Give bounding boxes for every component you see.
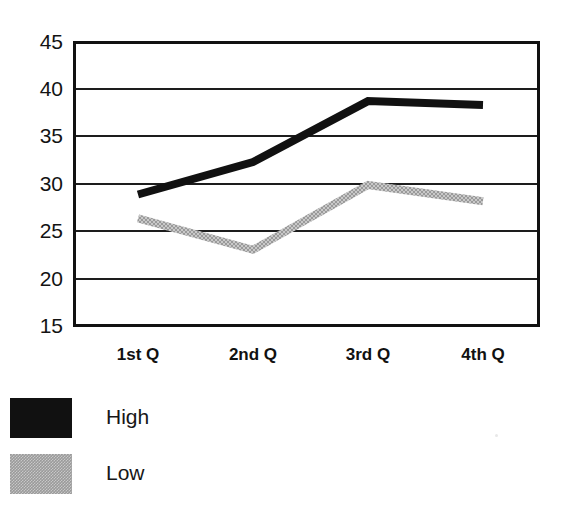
y-tick-label: 20 [3,268,63,289]
x-axis: 1st Q 2nd Q 3rd Q 4th Q [73,345,540,373]
x-tick-label-1: 1st Q [78,345,198,365]
chart-legend: High Low [10,398,310,507]
y-tick-label: 15 [3,315,63,336]
series-line-low [138,185,483,250]
y-tick-label: 25 [3,220,63,241]
line-chart: 45 40 35 30 25 20 15 1st Q 2nd Q 3rd Q 4… [0,0,575,507]
legend-label-high: High [106,405,149,429]
x-tick-label-2: 2nd Q [193,345,313,365]
legend-swatch-low-icon [10,454,72,494]
series-layer [73,41,540,327]
legend-label-low: Low [106,461,145,485]
x-tick-label-3: 3rd Q [308,345,428,365]
scan-speck [495,434,498,437]
y-tick-label: 40 [3,78,63,99]
series-line-high [138,101,483,194]
legend-item-high: High [10,398,310,454]
x-tick-label-4: 4th Q [423,345,543,365]
y-tick-label: 45 [3,31,63,52]
legend-swatch-high-icon [10,398,72,438]
legend-item-low: Low [10,454,310,507]
y-tick-label: 35 [3,125,63,146]
y-tick-label: 30 [3,173,63,194]
